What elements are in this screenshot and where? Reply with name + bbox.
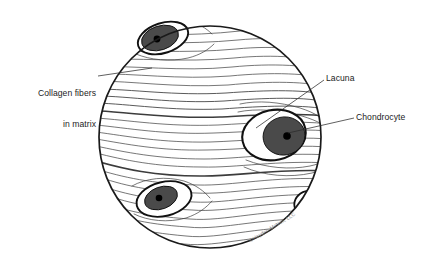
nucleus bbox=[156, 195, 163, 202]
label-collagen-fibers-line2: in matrix bbox=[16, 119, 96, 129]
nucleus bbox=[283, 132, 291, 140]
label-chondrocyte: Chondrocyte bbox=[356, 112, 405, 122]
nucleus bbox=[312, 196, 316, 200]
label-lacuna: Lacuna bbox=[326, 73, 355, 83]
figure-canvas: Collagen fibers in matrix Lacuna Chondro… bbox=[0, 0, 433, 276]
label-collagen-fibers-line1: Collagen fibers bbox=[16, 88, 96, 98]
label-collagen-fibers: Collagen fibers in matrix bbox=[16, 67, 96, 150]
